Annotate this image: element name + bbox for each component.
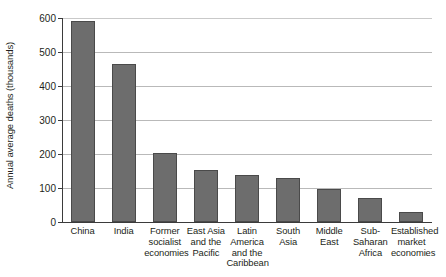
x-axis-category-label-line: America: [226, 237, 267, 248]
gridline: [62, 52, 432, 53]
bar: [194, 170, 218, 222]
x-axis-category-label-line: East: [309, 237, 350, 248]
bar: [153, 153, 177, 222]
bar: [399, 212, 423, 222]
y-tick-label: 0: [50, 217, 56, 228]
bar: [235, 175, 259, 222]
x-axis-category-label: East Asiaand thePacific: [185, 226, 226, 258]
x-axis-category-label: SouthAsia: [268, 226, 309, 248]
y-axis-title: Annual average deaths (thousands): [0, 0, 20, 230]
x-axis-category-label: Formersocialisteconomies: [144, 226, 185, 258]
x-axis-category-label-line: socialist: [144, 237, 185, 248]
x-axis-category-label: MiddleEast: [309, 226, 350, 248]
plot-area: 0100200300400500600: [62, 18, 432, 222]
x-axis-category-label: Sub-SaharanAfrica: [350, 226, 391, 258]
x-axis-category-label-line: Asia: [268, 237, 309, 248]
x-axis-category-label-line: economies: [144, 248, 185, 259]
x-axis-category-label: India: [103, 226, 144, 237]
x-axis-category-labels: ChinaIndiaFormersocialisteconomiesEast A…: [62, 226, 434, 276]
gridline: [62, 18, 432, 19]
x-axis-category-label-line: and the: [185, 237, 226, 248]
x-axis-category-label-line: economies: [391, 248, 432, 259]
bar: [317, 189, 341, 222]
y-tick-label: 500: [39, 47, 56, 58]
x-axis-category-label-line: market: [391, 237, 432, 248]
bar: [112, 64, 136, 222]
x-axis-line: [62, 222, 432, 223]
x-axis-category-label-line: Pacific: [185, 248, 226, 259]
x-axis-category-label-line: China: [62, 226, 103, 237]
y-tick-label: 100: [39, 183, 56, 194]
bar: [71, 21, 95, 222]
bar: [358, 198, 382, 222]
x-axis-category-label-line: Saharan: [350, 237, 391, 248]
x-axis-category-label: LatinAmericaand theCaribbean: [226, 226, 267, 269]
y-tick-label: 200: [39, 149, 56, 160]
x-axis-category-label-line: Caribbean: [226, 258, 267, 269]
y-axis-title-text: Annual average deaths (thousands): [5, 41, 16, 188]
x-axis-category-label-line: India: [103, 226, 144, 237]
bar-chart-figure: Annual average deaths (thousands) 010020…: [0, 0, 446, 277]
y-tick-label: 300: [39, 115, 56, 126]
x-axis-category-label-line: Africa: [350, 248, 391, 259]
bar: [276, 178, 300, 222]
y-tick-label: 600: [39, 13, 56, 24]
y-axis-spine: [62, 18, 63, 223]
x-axis-category-label: Establishedmarketeconomies: [391, 226, 432, 258]
y-tick-label: 400: [39, 81, 56, 92]
x-axis-category-label: China: [62, 226, 103, 237]
